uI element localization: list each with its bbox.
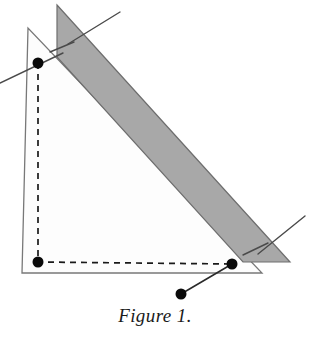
- point-free: [176, 289, 187, 300]
- vertex-bottom-right: [227, 259, 238, 270]
- vertex-bottom-left: [33, 257, 44, 268]
- geometry-diagram: [0, 0, 310, 340]
- figure-container: Figure 1.: [0, 0, 310, 340]
- vertex-top-left: [33, 58, 44, 69]
- figure-caption: Figure 1.: [0, 305, 310, 327]
